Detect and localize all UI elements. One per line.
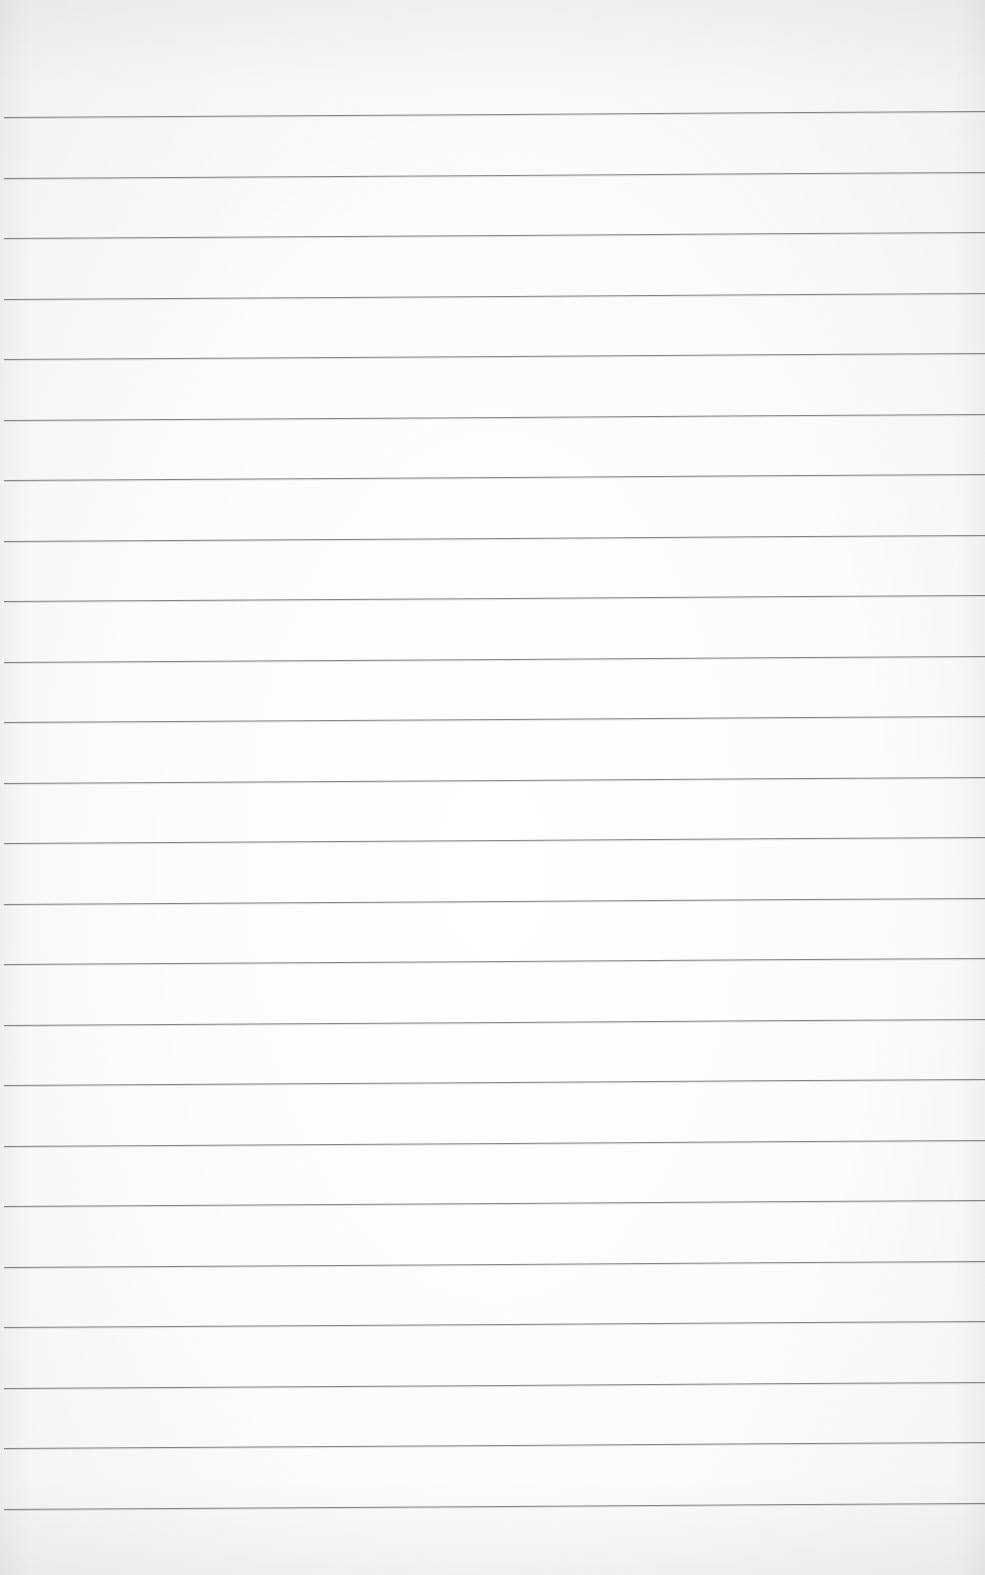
ruled-line (4, 1140, 985, 1147)
ruled-line (4, 898, 985, 905)
ruled-line (4, 293, 985, 300)
lined-paper-sheet (0, 0, 985, 1575)
ruled-line (4, 716, 985, 723)
ruled-line (4, 1079, 985, 1086)
ruled-line (4, 777, 985, 784)
ruled-line (4, 1442, 985, 1449)
ruled-line (4, 1200, 985, 1207)
ruled-line (4, 232, 985, 239)
ruled-line (4, 1321, 985, 1328)
ruled-line (4, 837, 985, 844)
ruled-line (4, 958, 985, 965)
ruled-line (4, 656, 985, 663)
ruled-line (4, 111, 985, 118)
ruled-line (4, 1019, 985, 1026)
ruled-line (4, 353, 985, 360)
ruled-line (4, 535, 985, 542)
ruled-line (4, 172, 985, 179)
ruled-line (4, 1503, 985, 1510)
ruled-line (4, 1261, 985, 1268)
ruled-line (4, 474, 985, 481)
ruled-line (4, 414, 985, 421)
ruled-line (4, 595, 985, 602)
ruled-line (4, 1382, 985, 1389)
